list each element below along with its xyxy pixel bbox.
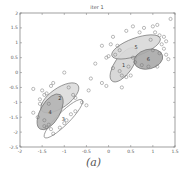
component-label-3: 3 <box>62 116 65 122</box>
component-label-6: 6 <box>147 56 150 62</box>
data-point <box>125 75 128 78</box>
x-tick-label: -1.5 <box>38 149 47 154</box>
data-point <box>138 31 141 34</box>
data-point <box>153 31 156 34</box>
y-tick-label: -2.5 <box>9 145 18 150</box>
data-point <box>169 17 172 20</box>
data-point <box>158 34 161 37</box>
x-axis-ticks: -2-1.5-1-0.500.511.5 <box>18 13 179 154</box>
data-point <box>85 104 88 107</box>
data-point <box>41 89 44 92</box>
data-point <box>32 87 35 90</box>
y-tick-label: 1 <box>15 40 18 45</box>
data-point <box>52 81 55 84</box>
data-point <box>105 84 108 87</box>
data-point <box>120 86 123 89</box>
x-tick-label: 0 <box>107 149 110 154</box>
x-tick-label: 1 <box>151 149 154 154</box>
x-tick-label: 1.5 <box>171 149 178 154</box>
data-point <box>131 25 134 28</box>
data-point <box>129 74 132 77</box>
scatter-figure: iter 1 123456 -2-1.5-1-0.500.511.5 21.51… <box>0 0 187 179</box>
y-tick-label: -0.5 <box>9 85 18 90</box>
y-tick-label: 0.5 <box>11 55 18 60</box>
data-point <box>111 35 114 38</box>
data-point <box>167 58 170 61</box>
component-label-4: 4 <box>49 109 52 115</box>
component-label-5: 5 <box>134 44 137 50</box>
data-point <box>162 47 165 50</box>
y-tick-label: 2 <box>15 11 18 16</box>
data-point <box>100 44 103 47</box>
data-point <box>87 89 90 92</box>
data-point <box>142 26 145 29</box>
data-point <box>125 29 128 32</box>
chart-title: iter 1 <box>90 4 103 10</box>
data-point <box>38 98 41 101</box>
data-point <box>160 43 163 46</box>
x-tick-label: -2 <box>18 149 23 154</box>
data-point <box>156 23 159 26</box>
data-point <box>89 77 92 80</box>
data-point <box>165 53 168 56</box>
data-point <box>151 25 154 28</box>
x-tick-label: 0.5 <box>127 149 134 154</box>
y-axis-ticks: 21.510.50-0.5-1-1.5-2-2.5 <box>9 11 175 150</box>
data-point <box>38 102 41 105</box>
data-point <box>63 71 66 74</box>
component-label-2: 2 <box>58 95 61 101</box>
component-label-1: 1 <box>122 62 125 68</box>
y-tick-label: -1.5 <box>9 115 18 120</box>
data-point <box>100 81 103 84</box>
y-tick-label: -2 <box>14 130 19 135</box>
data-point <box>109 43 112 46</box>
y-tick-label: 1.5 <box>11 25 18 30</box>
data-point <box>32 111 35 114</box>
data-point <box>162 35 165 38</box>
data-point <box>165 40 168 43</box>
data-point <box>49 84 52 87</box>
x-tick-label: -1 <box>62 149 67 154</box>
data-point <box>94 62 97 65</box>
y-tick-label: -1 <box>14 100 19 105</box>
figure-caption: (a) <box>0 156 187 169</box>
gaussian-components <box>32 30 165 142</box>
x-tick-label: -0.5 <box>82 149 91 154</box>
y-tick-label: 0 <box>15 70 18 75</box>
